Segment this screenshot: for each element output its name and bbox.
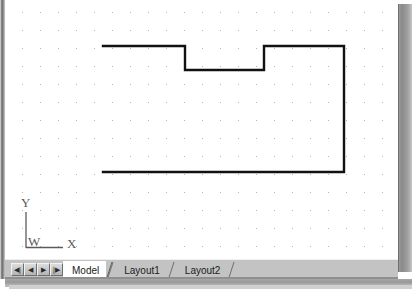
open-polyline-profile[interactable] (103, 46, 344, 172)
window-right-scroll-strip[interactable] (398, 0, 412, 272)
tab-label: Model (72, 265, 99, 276)
last-tab-button[interactable]: |▶ (50, 263, 63, 276)
tab-label: Layout1 (124, 265, 160, 276)
tab-navigation-buttons: ◀|◀▶|▶ (11, 263, 63, 276)
first-tab-button[interactable]: ◀| (11, 263, 24, 276)
window-left-border (0, 0, 5, 279)
previous-tab-button[interactable]: ◀ (24, 263, 37, 276)
ucs-world-marker-label: W (28, 234, 41, 249)
cad-application-window: Y W X ◀|◀▶|▶ ModelLayout1Layout2 (0, 0, 416, 292)
layout-tab-bar: ◀|◀▶|▶ ModelLayout1Layout2 (5, 259, 398, 279)
world-coordinate-system-icon: Y W X (11, 193, 91, 255)
next-tab-button[interactable]: ▶ (37, 263, 50, 276)
ucs-y-axis-label: Y (21, 195, 31, 210)
window-bottom-shadow (9, 285, 412, 289)
model-space-canvas[interactable]: Y W X (5, 0, 398, 259)
ucs-x-axis-label: X (67, 236, 77, 251)
window-right-border-cap (398, 0, 412, 4)
tab-label: Layout2 (185, 265, 221, 276)
